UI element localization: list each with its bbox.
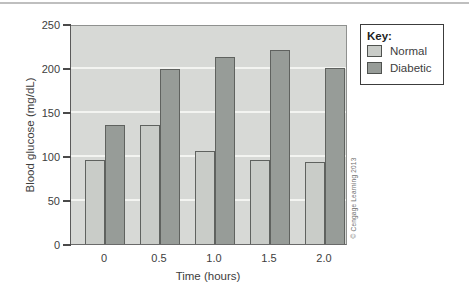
bar-normal-t1.0 [195,151,215,244]
gridline-200 [71,67,346,69]
y-tick-label-100: 100 [26,151,60,163]
legend-title: Key: [367,30,437,42]
bar-diabetic-t1.0 [215,57,235,244]
legend-item-label: Normal [390,45,427,57]
legend-rows: NormalDiabetic [367,45,437,74]
y-tick-150 [63,112,71,114]
legend-swatch-diabetic [367,62,382,74]
bar-normal-t0 [85,160,105,244]
legend-swatch-normal [367,45,382,57]
x-axis-title: Time (hours) [176,270,241,282]
legend-item-diabetic: Diabetic [367,62,437,74]
gridline-150 [71,111,346,113]
y-tick-label-250: 250 [26,19,60,31]
x-tick-label-2.0: 2.0 [316,252,331,264]
y-axis-title: Blood glucose (mg/dL) [24,77,36,192]
bar-diabetic-t0.5 [160,69,180,244]
bar-diabetic-t1.5 [270,50,290,244]
x-tick-label-1.5: 1.5 [261,252,276,264]
y-tick-label-0: 0 [26,239,60,251]
top-divider-rule [0,2,469,4]
bar-normal-t0.5 [140,125,160,244]
bar-normal-t2.0 [305,162,325,244]
y-tick-50 [63,200,71,202]
plot-area [70,25,347,245]
y-tick-100 [63,156,71,158]
bar-diabetic-t2.0 [325,68,345,244]
legend-item-label: Diabetic [390,62,432,74]
y-tick-200 [63,68,71,70]
y-tick-label-50: 50 [26,195,60,207]
legend-box: Key: NormalDiabetic [360,24,444,85]
blood-glucose-chart: Blood glucose (mg/dL) 050100150200250 00… [0,0,469,302]
x-tick-label-0.5: 0.5 [151,252,166,264]
x-tick-label-0: 0 [101,252,107,264]
y-tick-250 [63,24,71,26]
y-tick-label-150: 150 [26,107,60,119]
y-tick-label-200: 200 [26,63,60,75]
x-tick-label-1.0: 1.0 [206,252,221,264]
y-tick-0 [63,244,71,246]
copyright-credit: © Cengage Learning 2013 [350,158,357,239]
legend-item-normal: Normal [367,45,437,57]
bar-normal-t1.5 [250,160,270,244]
bar-diabetic-t0 [105,125,125,244]
